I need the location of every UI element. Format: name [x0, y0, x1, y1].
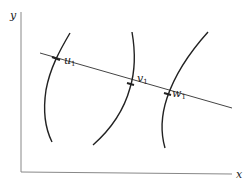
x-axis: [21, 172, 232, 174]
intersection-v1: [127, 83, 134, 85]
curve-2: [93, 32, 134, 145]
axes: y x: [9, 9, 243, 181]
point-label-u1: u1: [64, 54, 76, 68]
diagram-figure: y x u1 v1 w1: [0, 0, 248, 187]
curve-1: [45, 33, 70, 142]
intersection-u1: [52, 57, 60, 60]
point-label-w1: w1: [172, 87, 186, 101]
point-label-v1: v1: [137, 72, 148, 86]
intersection-w1: [164, 93, 171, 95]
y-axis-label: y: [9, 9, 17, 22]
x-axis-label: x: [236, 168, 243, 181]
